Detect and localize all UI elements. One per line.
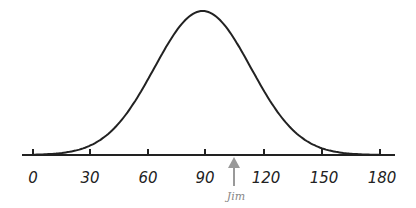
tick-label-0: 0: [28, 169, 38, 187]
tick-label-150: 150: [310, 169, 339, 187]
tick-labels: 0 30 60 90 120 150 180: [28, 169, 396, 187]
tick-label-30: 30: [80, 169, 99, 187]
jim-annotation: Jim: [225, 157, 245, 203]
tick-label-90: 90: [195, 169, 214, 187]
tick-label-120: 120: [252, 169, 281, 187]
tick-label-60: 60: [138, 169, 157, 187]
arrow-up-icon: [228, 157, 240, 168]
bell-curve: [33, 11, 380, 155]
jim-label: Jim: [225, 190, 245, 203]
tick-label-180: 180: [368, 169, 397, 187]
bell-curve-chart: 0 30 60 90 120 150 180 Jim: [0, 0, 416, 208]
